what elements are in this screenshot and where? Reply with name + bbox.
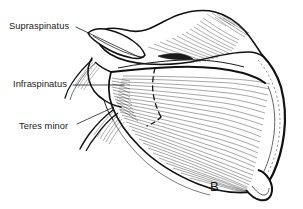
teres-minor-slip-hatch [94,111,124,144]
medial-border-group [258,55,285,190]
tendon-slip-upper-hatch [75,62,99,90]
infraspinatus-outline [109,72,252,193]
inferior-angle-group [246,170,272,200]
boundary-dashed-tail [147,117,161,126]
glenoid-neck-group [65,58,210,195]
spine-of-scapula [111,67,265,83]
infraspinatus-fibers [117,76,270,192]
scapula-illustration [0,0,303,209]
scapular-neck [95,62,111,72]
spine-notch [158,54,193,60]
teres-minor-slip [80,110,113,149]
panel-label: B [210,179,219,194]
acromion-outline [88,29,145,58]
infraspinatus-group [109,72,275,193]
anatomy-figure: Supraspinatus Infraspinatus Teres minor … [0,0,303,209]
inferior-angle-outline [246,170,272,200]
label-infraspinatus: Infraspinatus [13,80,67,89]
infraspinatus-medial-edge [262,86,275,175]
label-supraspinatus: Supraspinatus [9,22,69,31]
label-teres-minor: Teres minor [19,122,68,131]
